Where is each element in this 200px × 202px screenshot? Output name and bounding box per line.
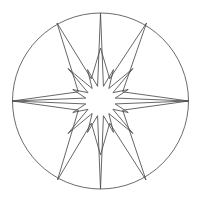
star-polygon: [13, 13, 189, 189]
bounding-circle: [13, 13, 189, 189]
figure-canvas: [0, 0, 200, 202]
star-in-circle-figure: [0, 0, 200, 202]
long-spike-overlay: [13, 23, 189, 180]
